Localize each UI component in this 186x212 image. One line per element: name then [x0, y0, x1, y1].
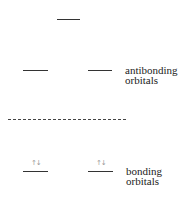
bonding-right-electron-pair: ↑↓ [96, 159, 106, 167]
antibonding-label-line2: orbitals [125, 75, 178, 85]
antibonding-label: antibonding orbitals [125, 65, 178, 85]
bonding-left-level [23, 171, 48, 172]
bonding-label: bonding orbitals [126, 166, 162, 186]
bonding-label-line2: orbitals [126, 176, 162, 186]
top-antibonding-level [57, 19, 80, 20]
antibonding-left-level [23, 70, 48, 71]
bonding-left-electron-pair: ↑↓ [31, 159, 41, 167]
energy-separator-dashed-line [8, 119, 126, 120]
bonding-right-level [88, 171, 113, 172]
antibonding-right-level [88, 70, 112, 71]
